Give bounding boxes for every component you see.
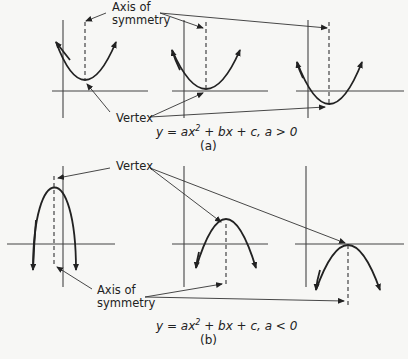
graph-b2 xyxy=(172,166,268,287)
part-b-downward-parabolas: Vertex Axis of symmetry y = ax2 + bx + c… xyxy=(7,159,404,347)
axis-of-symmetry-label-a-line1: Axis of xyxy=(112,0,152,14)
graph-b3 xyxy=(295,166,404,306)
vertex-label-a: Vertex xyxy=(116,111,153,125)
equation-a: y = ax2 + bx + c, a > 0 xyxy=(155,124,298,139)
graph-a1 xyxy=(52,20,148,118)
axis-of-symmetry-label-b-line1: Axis of xyxy=(97,283,137,297)
axis-of-symmetry-label-a-line2: symmetry xyxy=(112,13,171,27)
vertex-label-b: Vertex xyxy=(116,159,153,173)
caption-b: (b) xyxy=(200,333,217,347)
parabola-diagram: Axis of symmetry Vertex y = ax2 + bx + c… xyxy=(0,0,408,359)
graph-a2 xyxy=(172,20,268,118)
axis-of-symmetry-label-b-line2: symmetry xyxy=(97,296,156,310)
graph-b1 xyxy=(7,166,115,287)
part-a-upward-parabolas: Axis of symmetry Vertex y = ax2 + bx + c… xyxy=(52,0,404,153)
graph-a3 xyxy=(296,20,404,118)
caption-a: (a) xyxy=(200,139,217,153)
equation-b: y = ax2 + bx + c, a < 0 xyxy=(155,318,298,333)
